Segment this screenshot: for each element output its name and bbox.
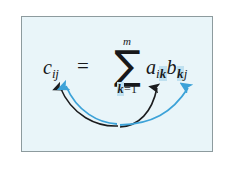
formula-figure: cij = m ∑ k=1 aikbkj	[0, 0, 232, 171]
formula-panel	[21, 16, 213, 152]
